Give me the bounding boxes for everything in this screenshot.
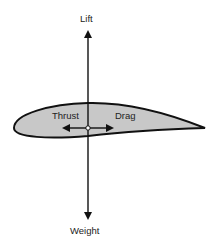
thrust-label: Thrust: [52, 110, 79, 121]
drag-label: Drag: [115, 110, 136, 121]
airfoil-shape: [14, 103, 205, 138]
center-of-gravity-point: [86, 126, 90, 130]
forces-diagram: [0, 0, 215, 246]
lift-label: Lift: [80, 13, 93, 24]
weight-label: Weight: [70, 225, 99, 236]
